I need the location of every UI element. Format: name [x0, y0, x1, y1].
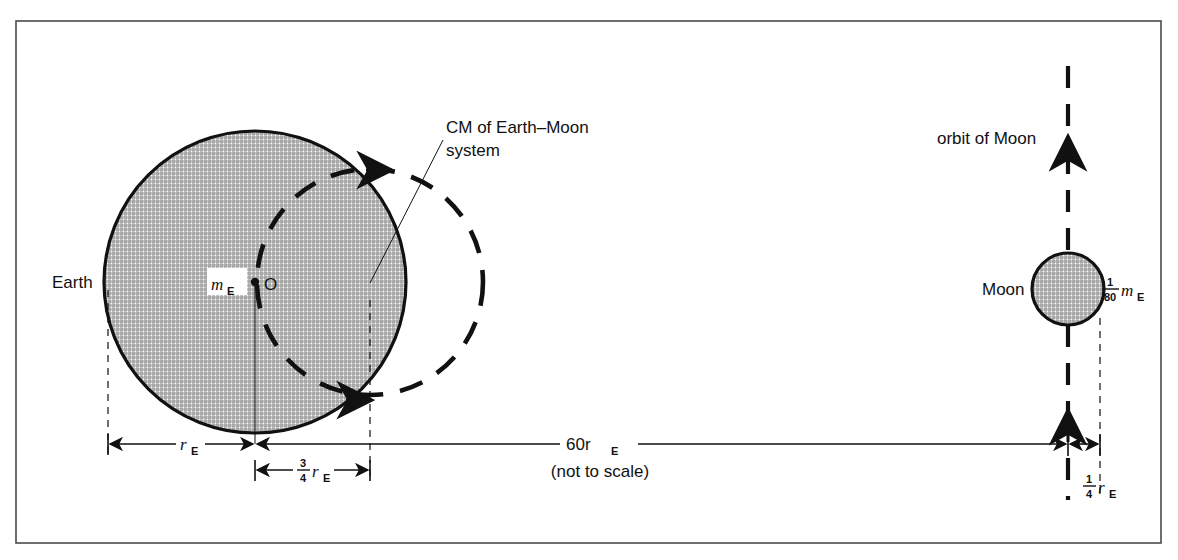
- moon-sphere: [1032, 253, 1104, 325]
- dimension-earth-moon-distance: 60r E (not to scale): [257, 435, 1066, 481]
- dim-label-re-subscript: E: [191, 445, 198, 457]
- earth-mass-symbol: m: [211, 275, 223, 294]
- earth-center-dot: [251, 278, 259, 286]
- dim-label-not-to-scale: (not to scale): [551, 462, 649, 481]
- earth-mass-subscript: E: [227, 285, 234, 297]
- moon-label: Moon: [982, 280, 1025, 299]
- dim-label-cm-denominator: 4: [300, 472, 307, 484]
- dim-label-moon-subscript: E: [1109, 488, 1116, 500]
- moon-mass-numerator: 1: [1107, 276, 1113, 288]
- dim-label-cm-symbol: r: [312, 462, 319, 481]
- moon-mass-label: 1 80 m E: [1102, 276, 1144, 303]
- dimension-cm-offset: 3 4 r E: [255, 457, 370, 484]
- dim-label-re-symbol: r: [180, 435, 187, 454]
- dim-label-60re-subscript: E: [611, 445, 618, 457]
- earth-label: Earth: [52, 273, 93, 292]
- orbit-of-moon-label: orbit of Moon: [937, 129, 1036, 148]
- dim-label-60re-symbol: 60r: [566, 435, 591, 454]
- cm-label-line1: CM of Earth–Moon: [446, 118, 589, 137]
- figure-container: m E O Earth CM of Earth–Moon system Moon…: [0, 0, 1178, 560]
- dim-label-moon-denominator: 4: [1086, 488, 1093, 500]
- dim-label-cm-numerator: 3: [300, 457, 306, 469]
- cm-label-line2: system: [446, 141, 500, 160]
- dim-label-cm-subscript: E: [323, 472, 330, 484]
- moon-mass-subscript: E: [1137, 291, 1144, 303]
- dim-label-moon-numerator: 1: [1086, 473, 1092, 485]
- moon-mass-denominator: 80: [1104, 291, 1116, 303]
- dim-label-moon-symbol: r: [1098, 478, 1105, 497]
- dimension-moon-offset: 1 4 r E: [1068, 434, 1116, 500]
- earth-moon-cm-diagram: m E O Earth CM of Earth–Moon system Moon…: [0, 0, 1178, 560]
- moon-mass-symbol: m: [1121, 281, 1133, 300]
- dimension-earth-radius: r E: [108, 434, 253, 457]
- earth-center-label: O: [264, 275, 277, 294]
